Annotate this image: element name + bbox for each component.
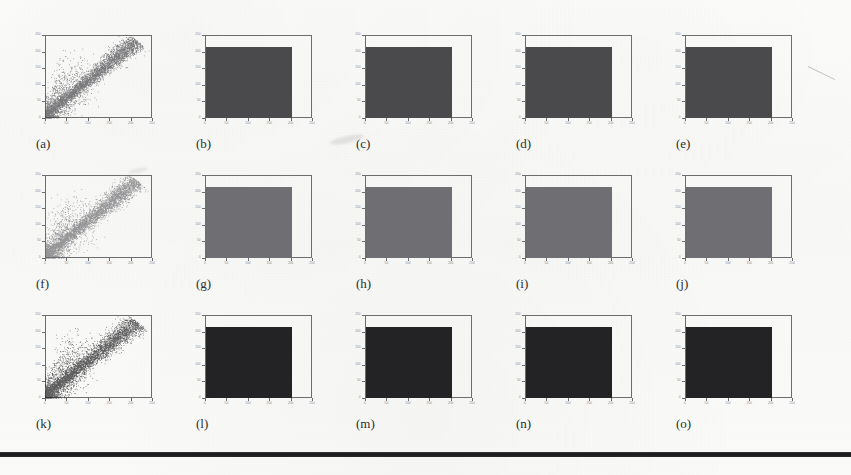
density-fill-n xyxy=(526,327,612,398)
y-tick-label-n-4: 200 xyxy=(512,330,521,333)
scatter-plot-k xyxy=(32,310,156,408)
y-tick-b-2 xyxy=(202,85,205,86)
y-tick-d-3 xyxy=(522,68,525,69)
x-tick-label-d-1: 50 xyxy=(545,122,549,125)
density-fill-i xyxy=(526,187,612,258)
x-tick-label-e-2: 100 xyxy=(725,122,730,125)
x-tick-label-o-5: 250 xyxy=(789,402,794,405)
y-tick-l-0 xyxy=(202,398,205,399)
y-tick-label-m-5: 250 xyxy=(352,313,361,316)
y-tick-d-0 xyxy=(522,118,525,119)
y-tick-j-1 xyxy=(682,241,685,242)
x-tick-label-c-3: 150 xyxy=(427,122,432,125)
y-tick-label-j-4: 200 xyxy=(672,190,681,193)
x-tick-label-g-5: 250 xyxy=(309,262,314,265)
y-tick-e-1 xyxy=(682,101,685,102)
y-tick-label-m-3: 150 xyxy=(352,347,361,350)
y-tick-label-j-1: 50 xyxy=(672,240,681,243)
y-tick-label-l-0: 0 xyxy=(192,396,201,399)
y-tick-c-1 xyxy=(362,101,365,102)
y-tick-label-j-3: 150 xyxy=(672,207,681,210)
x-tick-label-h-3: 150 xyxy=(427,262,432,265)
y-tick-label-l-2: 100 xyxy=(192,363,201,366)
y-tick-label-l-3: 150 xyxy=(192,347,201,350)
y-tick-l-4 xyxy=(202,332,205,333)
y-tick-g-5 xyxy=(202,175,205,176)
density-fill-j xyxy=(686,187,772,258)
y-tick-label-n-3: 150 xyxy=(512,347,521,350)
x-tick-label-i-1: 50 xyxy=(545,262,549,265)
x-tick-label-l-5: 250 xyxy=(309,402,314,405)
x-tick-label-b-3: 150 xyxy=(267,122,272,125)
y-tick-label-h-0: 0 xyxy=(352,256,361,259)
y-tick-c-0 xyxy=(362,118,365,119)
x-tick-label-g-0: 0 xyxy=(204,262,206,265)
y-tick-label-n-1: 50 xyxy=(512,380,521,383)
y-tick-label-h-2: 100 xyxy=(352,223,361,226)
y-tick-l-3 xyxy=(202,348,205,349)
y-tick-label-m-1: 50 xyxy=(352,380,361,383)
x-tick-label-m-4: 200 xyxy=(448,402,453,405)
y-tick-label-o-3: 150 xyxy=(672,347,681,350)
y-tick-label-c-2: 100 xyxy=(352,83,361,86)
y-tick-i-4 xyxy=(522,192,525,193)
subfigure-caption-n: (n) xyxy=(516,416,531,432)
y-tick-label-i-3: 150 xyxy=(512,207,521,210)
y-tick-label-l-1: 50 xyxy=(192,380,201,383)
y-tick-label-g-5: 250 xyxy=(192,173,201,176)
subfigure-grid: 050100150200250050100150200250(a)0501001… xyxy=(0,0,851,475)
x-tick-label-g-2: 100 xyxy=(245,262,250,265)
y-tick-label-i-5: 250 xyxy=(512,173,521,176)
subfigure-caption-d: (d) xyxy=(516,136,531,152)
x-tick-label-m-1: 50 xyxy=(385,402,389,405)
x-tick-label-j-0: 0 xyxy=(684,262,686,265)
subfigure-n: 050100150200250050100150200250(n) xyxy=(512,310,636,442)
y-tick-label-d-3: 150 xyxy=(512,67,521,70)
subfigure-caption-a: (a) xyxy=(36,136,50,152)
x-tick-label-i-2: 100 xyxy=(565,262,570,265)
y-tick-label-d-4: 200 xyxy=(512,50,521,53)
y-tick-label-i-4: 200 xyxy=(512,190,521,193)
y-tick-label-g-0: 0 xyxy=(192,256,201,259)
subfigure-h: 050100150200250050100150200250(h) xyxy=(352,170,476,302)
y-tick-o-1 xyxy=(682,381,685,382)
x-tick-label-l-1: 50 xyxy=(225,402,229,405)
x-tick-label-o-3: 150 xyxy=(747,402,752,405)
y-tick-e-5 xyxy=(682,35,685,36)
y-tick-label-i-1: 50 xyxy=(512,240,521,243)
subfigure-o: 050100150200250050100150200250(o) xyxy=(672,310,796,442)
y-tick-e-0 xyxy=(682,118,685,119)
y-tick-e-2 xyxy=(682,85,685,86)
y-tick-label-c-4: 200 xyxy=(352,50,361,53)
y-tick-b-1 xyxy=(202,101,205,102)
x-tick-label-m-2: 100 xyxy=(405,402,410,405)
x-tick-label-m-3: 150 xyxy=(427,402,432,405)
y-tick-label-e-1: 50 xyxy=(672,100,681,103)
x-tick-label-l-3: 150 xyxy=(267,402,272,405)
y-tick-label-n-2: 100 xyxy=(512,363,521,366)
y-tick-i-0 xyxy=(522,258,525,259)
subfigure-j: 050100150200250050100150200250(j) xyxy=(672,170,796,302)
y-tick-b-0 xyxy=(202,118,205,119)
y-tick-label-h-4: 200 xyxy=(352,190,361,193)
x-tick-label-c-5: 250 xyxy=(469,122,474,125)
x-tick-label-b-1: 50 xyxy=(225,122,229,125)
x-tick-label-i-3: 150 xyxy=(587,262,592,265)
x-tick-label-e-5: 250 xyxy=(789,122,794,125)
y-tick-j-4 xyxy=(682,192,685,193)
y-tick-m-2 xyxy=(362,365,365,366)
y-tick-j-5 xyxy=(682,175,685,176)
x-tick-label-g-3: 150 xyxy=(267,262,272,265)
subfigure-i: 050100150200250050100150200250(i) xyxy=(512,170,636,302)
subfigure-a: 050100150200250050100150200250(a) xyxy=(32,30,156,162)
x-tick-label-n-3: 150 xyxy=(587,402,592,405)
y-tick-i-5 xyxy=(522,175,525,176)
x-tick-label-e-4: 200 xyxy=(768,122,773,125)
x-tick-label-l-4: 200 xyxy=(288,402,293,405)
y-tick-c-4 xyxy=(362,52,365,53)
x-tick-label-c-0: 0 xyxy=(364,122,366,125)
y-tick-label-h-3: 150 xyxy=(352,207,361,210)
y-tick-label-h-5: 250 xyxy=(352,173,361,176)
subfigure-f: 050100150200250050100150200250(f) xyxy=(32,170,156,302)
y-tick-h-4 xyxy=(362,192,365,193)
